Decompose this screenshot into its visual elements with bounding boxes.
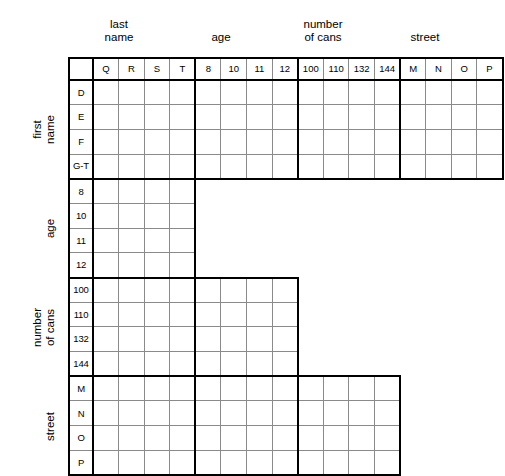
- grid-cell-F-R[interactable]: [119, 129, 145, 154]
- grid-cell-N-11[interactable]: [247, 401, 273, 426]
- grid-cell-100-10[interactable]: [221, 278, 247, 303]
- grid-cell-F-144[interactable]: [375, 129, 401, 154]
- grid-cell-132-T[interactable]: [170, 327, 196, 352]
- grid-cell-E-12[interactable]: [272, 105, 298, 130]
- grid-cell-P-12[interactable]: [272, 450, 298, 475]
- grid-cell-8-R[interactable]: [119, 179, 145, 204]
- grid-cell-E-110[interactable]: [323, 105, 349, 130]
- grid-cell-11-R[interactable]: [119, 228, 145, 253]
- grid-cell-G-T-12[interactable]: [272, 154, 298, 179]
- grid-cell-10-R[interactable]: [119, 203, 145, 228]
- grid-cell-P-T[interactable]: [170, 450, 196, 475]
- grid-cell-M-100[interactable]: [298, 376, 324, 401]
- grid-cell-12-R[interactable]: [119, 253, 145, 278]
- grid-cell-E-144[interactable]: [375, 105, 401, 130]
- grid-cell-110-10[interactable]: [221, 302, 247, 327]
- grid-cell-G-T-S[interactable]: [144, 154, 170, 179]
- grid-cell-110-T[interactable]: [170, 302, 196, 327]
- grid-cell-M-Q[interactable]: [93, 376, 119, 401]
- grid-cell-D-N[interactable]: [426, 80, 452, 105]
- grid-cell-E-100[interactable]: [298, 105, 324, 130]
- grid-cell-144-T[interactable]: [170, 352, 196, 377]
- grid-cell-P-Q[interactable]: [93, 450, 119, 475]
- grid-cell-F-12[interactable]: [272, 129, 298, 154]
- grid-cell-G-T-8[interactable]: [195, 154, 221, 179]
- grid-cell-D-Q[interactable]: [93, 80, 119, 105]
- grid-cell-M-R[interactable]: [119, 376, 145, 401]
- grid-cell-O-T[interactable]: [170, 426, 196, 451]
- grid-cell-N-T[interactable]: [170, 401, 196, 426]
- grid-cell-N-10[interactable]: [221, 401, 247, 426]
- grid-cell-D-10[interactable]: [221, 80, 247, 105]
- grid-cell-P-R[interactable]: [119, 450, 145, 475]
- grid-cell-D-100[interactable]: [298, 80, 324, 105]
- grid-cell-E-8[interactable]: [195, 105, 221, 130]
- grid-cell-100-S[interactable]: [144, 278, 170, 303]
- grid-cell-F-8[interactable]: [195, 129, 221, 154]
- grid-cell-100-T[interactable]: [170, 278, 196, 303]
- grid-cell-100-8[interactable]: [195, 278, 221, 303]
- grid-cell-132-8[interactable]: [195, 327, 221, 352]
- grid-cell-D-R[interactable]: [119, 80, 145, 105]
- grid-cell-144-S[interactable]: [144, 352, 170, 377]
- grid-cell-M-8[interactable]: [195, 376, 221, 401]
- grid-cell-E-N[interactable]: [426, 105, 452, 130]
- grid-cell-E-Q[interactable]: [93, 105, 119, 130]
- grid-cell-G-T-Q[interactable]: [93, 154, 119, 179]
- grid-cell-M-144[interactable]: [375, 376, 401, 401]
- grid-cell-100-12[interactable]: [272, 278, 298, 303]
- grid-cell-O-132[interactable]: [349, 426, 375, 451]
- grid-cell-N-110[interactable]: [323, 401, 349, 426]
- grid-cell-O-S[interactable]: [144, 426, 170, 451]
- grid-cell-144-11[interactable]: [247, 352, 273, 377]
- grid-cell-100-11[interactable]: [247, 278, 273, 303]
- grid-cell-M-11[interactable]: [247, 376, 273, 401]
- grid-cell-P-10[interactable]: [221, 450, 247, 475]
- grid-cell-O-8[interactable]: [195, 426, 221, 451]
- grid-cell-D-P[interactable]: [477, 80, 503, 105]
- grid-cell-G-T-O[interactable]: [451, 154, 477, 179]
- grid-cell-100-R[interactable]: [119, 278, 145, 303]
- grid-cell-110-S[interactable]: [144, 302, 170, 327]
- grid-cell-N-132[interactable]: [349, 401, 375, 426]
- grid-cell-G-T-144[interactable]: [375, 154, 401, 179]
- grid-cell-F-110[interactable]: [323, 129, 349, 154]
- grid-cell-G-T-N[interactable]: [426, 154, 452, 179]
- grid-cell-P-144[interactable]: [375, 450, 401, 475]
- grid-cell-P-11[interactable]: [247, 450, 273, 475]
- grid-cell-144-12[interactable]: [272, 352, 298, 377]
- grid-cell-D-O[interactable]: [451, 80, 477, 105]
- grid-cell-110-11[interactable]: [247, 302, 273, 327]
- grid-cell-N-8[interactable]: [195, 401, 221, 426]
- grid-cell-144-R[interactable]: [119, 352, 145, 377]
- grid-cell-N-100[interactable]: [298, 401, 324, 426]
- grid-cell-F-M[interactable]: [400, 129, 426, 154]
- grid-cell-O-12[interactable]: [272, 426, 298, 451]
- grid-cell-E-T[interactable]: [170, 105, 196, 130]
- grid-cell-E-11[interactable]: [247, 105, 273, 130]
- grid-cell-N-S[interactable]: [144, 401, 170, 426]
- grid-cell-G-T-100[interactable]: [298, 154, 324, 179]
- grid-cell-M-110[interactable]: [323, 376, 349, 401]
- grid-cell-12-S[interactable]: [144, 253, 170, 278]
- grid-cell-G-T-10[interactable]: [221, 154, 247, 179]
- grid-cell-110-12[interactable]: [272, 302, 298, 327]
- grid-cell-P-132[interactable]: [349, 450, 375, 475]
- grid-cell-100-Q[interactable]: [93, 278, 119, 303]
- grid-cell-132-S[interactable]: [144, 327, 170, 352]
- grid-cell-G-T-110[interactable]: [323, 154, 349, 179]
- grid-cell-E-R[interactable]: [119, 105, 145, 130]
- grid-cell-O-R[interactable]: [119, 426, 145, 451]
- grid-cell-F-100[interactable]: [298, 129, 324, 154]
- grid-cell-F-P[interactable]: [477, 129, 503, 154]
- grid-cell-O-144[interactable]: [375, 426, 401, 451]
- grid-cell-D-T[interactable]: [170, 80, 196, 105]
- grid-cell-M-10[interactable]: [221, 376, 247, 401]
- grid-cell-G-T-M[interactable]: [400, 154, 426, 179]
- grid-cell-8-T[interactable]: [170, 179, 196, 204]
- grid-cell-O-Q[interactable]: [93, 426, 119, 451]
- grid-cell-N-Q[interactable]: [93, 401, 119, 426]
- grid-cell-O-10[interactable]: [221, 426, 247, 451]
- grid-cell-110-8[interactable]: [195, 302, 221, 327]
- grid-cell-D-12[interactable]: [272, 80, 298, 105]
